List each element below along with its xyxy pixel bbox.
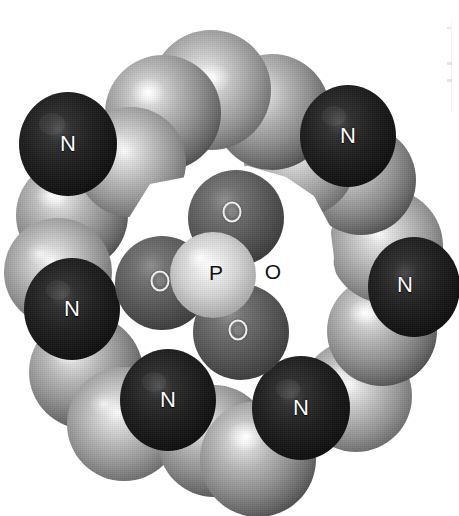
nitrogen-sphere xyxy=(19,92,117,196)
nitrogen-sphere xyxy=(120,349,216,451)
oxygen-label-phosphate-top xyxy=(223,202,242,223)
nitrogen-sphere xyxy=(24,258,120,360)
oxygen-label-phosphate-left xyxy=(151,271,170,292)
oxygen-label-phosphate-bottom xyxy=(229,320,248,341)
oxygen-ring-inner-left xyxy=(156,276,165,286)
edge-rule xyxy=(451,20,452,112)
nitrogen-sphere xyxy=(368,237,459,337)
phosphorus-sphere xyxy=(170,232,256,318)
molecular-model-figure: N N N N N N P O Space-filling model of a… xyxy=(0,0,459,516)
molecule-canvas xyxy=(0,0,459,516)
nitrogen-sphere xyxy=(300,85,396,187)
oxygen-ring-inner-top xyxy=(228,207,237,217)
oxygen-ring-inner-bottom xyxy=(234,325,243,335)
